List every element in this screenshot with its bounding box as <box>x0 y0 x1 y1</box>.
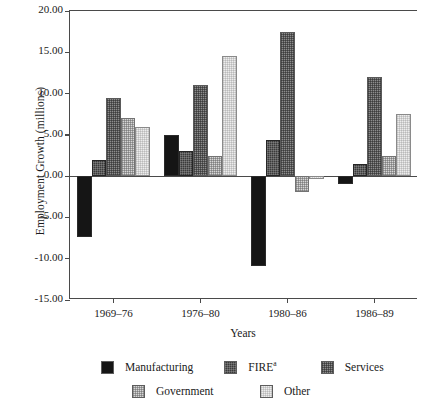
y-tick-mark <box>65 93 70 94</box>
legend-label-other: Other <box>284 385 310 397</box>
bar-other-1969-76 <box>135 127 150 177</box>
bar-fire-1969-76 <box>92 160 107 177</box>
legend-item-manufacturing[interactable]: Manufacturing <box>101 361 224 374</box>
bar-fire-1986-89 <box>353 164 368 176</box>
legend-label-superscript: a <box>273 359 276 368</box>
legend-item-government[interactable]: Government <box>132 385 260 398</box>
legend-label-fire: FIREa <box>248 361 276 373</box>
bar-services-1980-86 <box>280 32 295 177</box>
legend-swatch-manufacturing <box>101 361 114 374</box>
legend-item-other[interactable]: Other <box>260 385 360 398</box>
legend-label-services: Services <box>345 361 384 373</box>
bar-manufacturing-1969-76 <box>77 176 92 237</box>
bar-government-1980-86 <box>295 176 310 192</box>
bar-manufacturing-1976-80 <box>164 135 179 176</box>
x-tick-mark <box>287 298 288 303</box>
legend-row: ManufacturingFIREaServices <box>69 355 417 379</box>
x-tick-label: 1969–76 <box>64 307 164 319</box>
bar-services-1969-76 <box>106 98 121 176</box>
bar-other-1980-86 <box>309 176 324 178</box>
legend-item-services[interactable]: Services <box>321 361 417 374</box>
legend-label-manufacturing: Manufacturing <box>125 361 193 373</box>
bar-government-1969-76 <box>121 118 136 176</box>
bar-other-1986-89 <box>396 114 411 176</box>
legend-swatch-services <box>321 361 334 374</box>
y-tick-mark <box>65 217 70 218</box>
chart-legend: ManufacturingFIREaServices GovernmentOth… <box>69 355 417 403</box>
y-tick-mark <box>65 52 70 53</box>
x-tick-label: 1986–89 <box>325 307 421 319</box>
legend-item-fire[interactable]: FIREa <box>224 361 320 374</box>
x-tick-label: 1980–86 <box>238 307 338 319</box>
legend-label-government: Government <box>156 385 213 397</box>
bar-fire-1976-80 <box>179 151 194 176</box>
plot-area: 20.0015.0010.005.000.00-5.00-10.00-15.00… <box>69 10 417 299</box>
legend-swatch-government <box>132 385 145 398</box>
x-tick-mark <box>200 298 201 303</box>
y-tick-label: 15.00 <box>38 44 63 56</box>
bar-government-1976-80 <box>208 156 223 176</box>
x-tick-mark <box>113 298 114 303</box>
y-tick-mark <box>65 300 70 301</box>
y-tick-label: -10.00 <box>35 251 63 263</box>
y-tick-mark <box>65 258 70 259</box>
y-tick-label: -5.00 <box>40 209 63 221</box>
bar-chart-figure: Employment Growth (millions) 20.0015.001… <box>0 0 421 411</box>
legend-swatch-fire <box>224 361 237 374</box>
y-tick-mark <box>65 176 70 177</box>
y-tick-label: 5.00 <box>44 127 63 139</box>
y-tick-label: 20.00 <box>38 3 63 15</box>
x-tick-label: 1976–80 <box>151 307 251 319</box>
zero-baseline <box>70 176 417 177</box>
bar-other-1976-80 <box>222 56 237 177</box>
x-tick-mark <box>374 298 375 303</box>
bar-manufacturing-1980-86 <box>251 176 266 266</box>
y-tick-mark <box>65 134 70 135</box>
legend-swatch-other <box>260 385 273 398</box>
y-tick-mark <box>65 11 70 12</box>
x-axis-title: Years <box>69 327 417 339</box>
bar-government-1986-89 <box>382 156 397 176</box>
bar-manufacturing-1986-89 <box>338 176 353 184</box>
bar-services-1976-80 <box>193 85 208 176</box>
y-tick-label: -15.00 <box>35 292 63 304</box>
legend-row: GovernmentOther <box>69 379 417 403</box>
bar-services-1986-89 <box>367 77 382 176</box>
bar-fire-1980-86 <box>266 140 281 176</box>
y-tick-label: 10.00 <box>38 86 63 98</box>
y-tick-label: 0.00 <box>44 168 63 180</box>
